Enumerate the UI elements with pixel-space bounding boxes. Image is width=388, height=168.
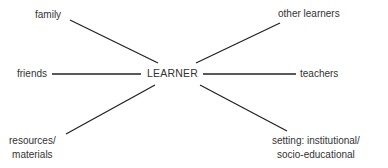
node-friends: friends [17,67,47,81]
node-family: family [35,8,61,22]
node-setting-line2: socio-educational [272,148,360,162]
learner-relationship-diagram: LEARNER family friends resources/ materi… [0,0,388,168]
node-resources-line2: materials [9,148,56,162]
center-node-learner: LEARNER [147,66,198,80]
line-setting [200,85,287,131]
line-family [70,20,158,63]
node-resources-line1: resources/ [9,134,56,148]
node-teachers: teachers [300,67,338,81]
line-resources [66,85,155,134]
line-other-learners [196,23,280,63]
node-setting: setting: institutional/ socio-educationa… [272,134,360,162]
node-other-learners: other learners [278,7,340,21]
node-resources-materials: resources/ materials [9,134,56,162]
node-setting-line1: setting: institutional/ [272,134,360,148]
